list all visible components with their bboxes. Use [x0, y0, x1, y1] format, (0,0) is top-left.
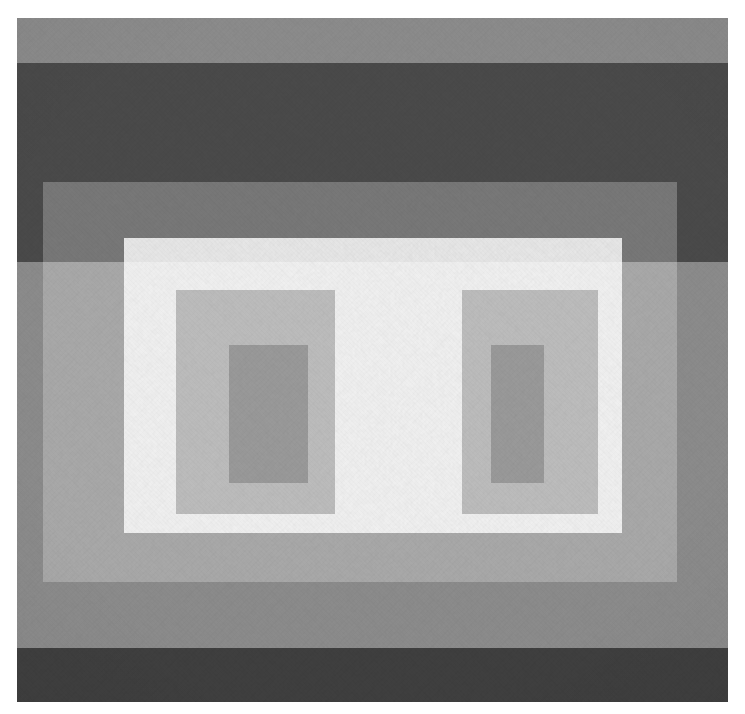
shape-left-core [229, 345, 308, 483]
band-top-light [17, 18, 728, 63]
painted-panel [17, 18, 728, 702]
band-lower-dark [17, 648, 728, 702]
artwork-canvas [0, 0, 745, 714]
shape-right-core [491, 345, 544, 483]
